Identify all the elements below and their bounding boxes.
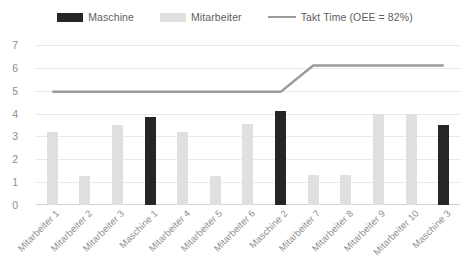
bar-swatch-icon	[160, 13, 186, 22]
y-axis-tick-label: 6	[0, 62, 18, 74]
plot-area	[36, 45, 460, 205]
y-axis-tick-label: 2	[0, 153, 18, 165]
y-axis-tick-label: 4	[0, 108, 18, 120]
bar-slot	[362, 45, 395, 205]
legend-label-mitarbeiter: Mitarbeiter	[191, 11, 242, 23]
y-axis-tick-label: 3	[0, 130, 18, 142]
bar-maschine[interactable]	[438, 125, 449, 205]
bar-slot	[395, 45, 428, 205]
y-axis-tick-label: 0	[0, 199, 18, 211]
chart-legend: Maschine Mitarbeiter Takt Time (OEE = 82…	[0, 6, 470, 28]
bar-slot	[297, 45, 330, 205]
legend-label-takt-time: Takt Time (OEE = 82%)	[301, 11, 413, 23]
bar-mitarbeiter[interactable]	[112, 125, 123, 205]
bar-mitarbeiter[interactable]	[308, 175, 319, 205]
y-axis-tick-label: 5	[0, 85, 18, 97]
legend-item-maschine[interactable]: Maschine	[57, 11, 134, 23]
y-axis-tick-label: 7	[0, 39, 18, 51]
bar-mitarbeiter[interactable]	[210, 176, 221, 205]
x-axis-labels: Mitarbeiter 1Mitarbeiter 2Mitarbeiter 3M…	[36, 205, 460, 271]
x-axis-label-slot: Maschine 3	[427, 205, 460, 271]
bar-slot	[264, 45, 297, 205]
bar-mitarbeiter[interactable]	[406, 114, 417, 205]
legend-label-maschine: Maschine	[88, 11, 134, 23]
bar-mitarbeiter[interactable]	[47, 132, 58, 205]
bar-mitarbeiter[interactable]	[373, 114, 384, 205]
line-swatch-icon	[268, 16, 296, 18]
bar-maschine[interactable]	[275, 111, 286, 205]
bar-mitarbeiter[interactable]	[79, 176, 90, 205]
bar-slot	[329, 45, 362, 205]
bar-slot	[101, 45, 134, 205]
bar-mitarbeiter[interactable]	[177, 132, 188, 205]
y-axis-tick-label: 1	[0, 176, 18, 188]
bar-slot	[69, 45, 102, 205]
bar-swatch-icon	[57, 13, 83, 22]
legend-item-takt-time[interactable]: Takt Time (OEE = 82%)	[268, 11, 413, 23]
bar-mitarbeiter[interactable]	[340, 175, 351, 205]
chart-container: Maschine Mitarbeiter Takt Time (OEE = 82…	[0, 0, 470, 271]
bar-slot	[232, 45, 265, 205]
bar-maschine[interactable]	[145, 117, 156, 205]
bar-group	[36, 45, 460, 205]
legend-item-mitarbeiter[interactable]: Mitarbeiter	[160, 11, 242, 23]
bar-slot	[427, 45, 460, 205]
bar-mitarbeiter[interactable]	[242, 124, 253, 205]
bar-slot	[36, 45, 69, 205]
bar-slot	[199, 45, 232, 205]
bar-slot	[166, 45, 199, 205]
bar-slot	[134, 45, 167, 205]
